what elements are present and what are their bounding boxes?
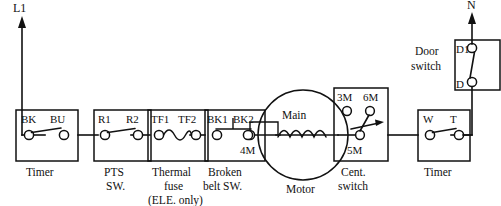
terminal-3m[interactable] — [343, 107, 352, 116]
terminal-label-4m: 4M — [240, 144, 256, 156]
pts-caption-line1: PTS — [104, 166, 124, 178]
l1-arrowhead — [18, 16, 26, 28]
belt-caption-line1: Broken — [208, 166, 242, 178]
timer-left-blade[interactable] — [32, 128, 62, 133]
component-thermal-fuse[interactable]: TF1 TF2 Thermal fuse (ELE. only) — [148, 110, 208, 206]
terminal-6m[interactable] — [366, 107, 375, 116]
n-label: N — [467, 0, 476, 12]
terminal-label-bk: BK — [21, 113, 36, 125]
terminal-tf2[interactable] — [191, 130, 200, 139]
terminal-d[interactable] — [467, 77, 476, 86]
door-switch-blade[interactable] — [470, 52, 475, 78]
neutral-rail-n: N — [467, 0, 476, 44]
terminal-4m[interactable] — [243, 130, 252, 139]
terminal-label-tf1: TF1 — [151, 113, 169, 125]
terminal-label-t: T — [450, 113, 457, 125]
door-caption-line1: Door — [415, 45, 439, 57]
terminal-label-w: W — [423, 113, 434, 125]
centrifugal-blade[interactable] — [360, 115, 369, 131]
thermal-caption-line3: (ELE. only) — [148, 194, 203, 206]
pts-switch-blade[interactable] — [108, 129, 136, 133]
centrifugal-actuator-arrow-shaft — [351, 123, 379, 129]
wiring-diagram: L1 BK BU Timer R1 R2 — [0, 0, 501, 206]
cent-caption-line2: switch — [338, 180, 368, 192]
door-caption-line2: switch — [411, 60, 441, 72]
terminal-label-d: D — [456, 78, 464, 90]
component-centrifugal-switch[interactable]: 3M 6M 5M Cent. switch — [334, 88, 388, 192]
terminal-label-6m: 6M — [363, 91, 379, 103]
pts-caption-line2: SW. — [106, 180, 125, 192]
terminal-r2[interactable] — [133, 130, 142, 139]
terminal-label-tf2: TF2 — [178, 113, 196, 125]
thermal-fuse-element — [164, 130, 192, 140]
terminal-label-3m: 3M — [337, 91, 353, 103]
terminal-5m[interactable] — [356, 131, 365, 140]
terminal-label-bk1: BK1 — [207, 113, 228, 125]
component-timer-left[interactable]: BK BU Timer — [16, 110, 78, 178]
motor-winding — [278, 131, 326, 138]
wiring-diagram-canvas: L1 BK BU Timer R1 R2 — [0, 0, 501, 206]
timer-right-blade[interactable] — [433, 129, 457, 133]
terminal-label-bu: BU — [50, 113, 65, 125]
timer-left-caption: Timer — [26, 166, 54, 178]
thermal-caption-line2: fuse — [164, 180, 183, 192]
terminal-bk1[interactable] — [212, 130, 221, 139]
n-arrowhead — [468, 12, 476, 24]
component-pts-switch[interactable]: R1 R2 PTS SW. — [94, 110, 151, 192]
terminal-label-r2: R2 — [126, 113, 139, 125]
cent-caption-line1: Cent. — [341, 166, 366, 178]
terminal-label-r1: R1 — [98, 113, 111, 125]
l1-label: L1 — [13, 1, 26, 15]
motor-caption: Motor — [286, 183, 315, 195]
terminal-label-5m: 5M — [347, 144, 363, 156]
belt-caption-line2: belt SW. — [203, 180, 242, 192]
centrifugal-arrowhead — [375, 120, 384, 127]
component-motor[interactable]: 4M Main Motor — [240, 90, 348, 195]
component-door-switch[interactable]: D1 D Door switch — [411, 40, 500, 90]
thermal-caption-line1: Thermal — [152, 166, 191, 178]
terminal-tf1[interactable] — [154, 130, 163, 139]
motor-winding-label: Main — [282, 109, 307, 121]
terminal-bu[interactable] — [59, 130, 68, 139]
component-timer-right[interactable]: W T Timer — [418, 110, 470, 178]
timer-right-caption: Timer — [424, 166, 452, 178]
